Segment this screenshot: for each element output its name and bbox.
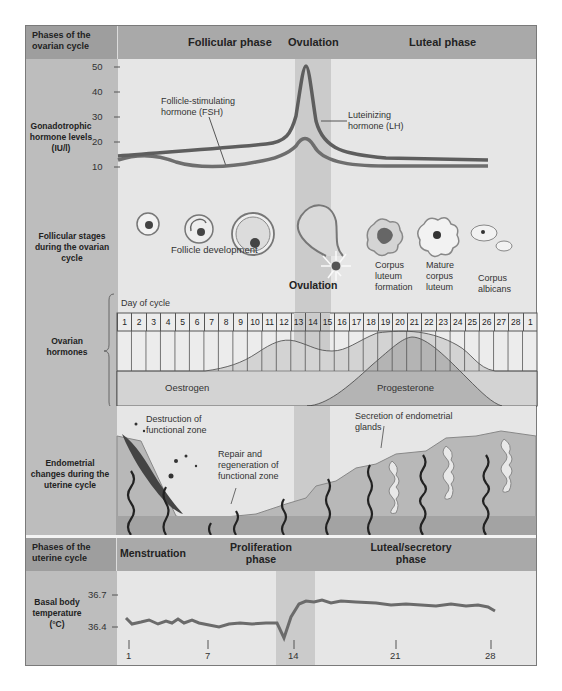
destruction-label: Destruction of functional zone xyxy=(146,414,212,436)
day-cell: 21 xyxy=(407,313,421,331)
endometrial-section: Endometrial changes during the uterine c… xyxy=(26,406,536,535)
day-cell: 13 xyxy=(291,313,305,331)
uterine-phase-header: Phases of the uterine cycle Menstruation… xyxy=(26,538,536,571)
progesterone-label: Progesterone xyxy=(377,382,434,393)
day-cell: 1 xyxy=(523,313,537,331)
menstruation-label: Menstruation xyxy=(120,547,186,559)
day-cell: 3 xyxy=(146,313,160,331)
oestrogen-label: Oestrogen xyxy=(165,382,209,393)
day-cell: 25 xyxy=(465,313,479,331)
secretion-label: Secretion of endometrial glands xyxy=(355,411,465,433)
bbt-x-tick-14: 14 xyxy=(288,650,299,661)
proliferation-label: Proliferation phase xyxy=(216,541,306,565)
day-cell: 15 xyxy=(320,313,334,331)
day-cell: 4 xyxy=(160,313,174,331)
day-cell: 24 xyxy=(450,313,464,331)
day-cell: 7 xyxy=(204,313,218,331)
day-cell: 12 xyxy=(276,313,290,331)
day-cell: 11 xyxy=(262,313,276,331)
day-cell: 28 xyxy=(508,313,522,331)
bbt-x-tick-7: 7 xyxy=(205,650,210,661)
uterine-header-label: Phases of the uterine cycle xyxy=(32,542,114,564)
repair-label: Repair and regeneration of functional zo… xyxy=(218,449,288,482)
luteal-secretory-label: Luteal/secretory phase xyxy=(356,541,466,565)
day-of-cycle-label: Day of cycle xyxy=(121,298,170,309)
day-cell: 19 xyxy=(378,313,392,331)
day-cell: 22 xyxy=(421,313,435,331)
day-cell: 23 xyxy=(436,313,450,331)
day-cell: 1 xyxy=(117,313,131,331)
day-cell: 6 xyxy=(189,313,203,331)
day-cell: 8 xyxy=(218,313,232,331)
day-cell: 10 xyxy=(247,313,261,331)
bbt-section: Basal body temperature (°C) 36.7 36.4 1 … xyxy=(26,571,536,665)
day-cell: 2 xyxy=(131,313,145,331)
day-cell: 9 xyxy=(233,313,247,331)
bbt-x-tick-1: 1 xyxy=(126,650,131,661)
day-cell: 26 xyxy=(479,313,493,331)
day-cell: 16 xyxy=(334,313,348,331)
day-cell: 20 xyxy=(392,313,406,331)
day-cell: 5 xyxy=(175,313,189,331)
bbt-chart xyxy=(26,571,536,665)
day-cell: 27 xyxy=(494,313,508,331)
bbt-x-tick-21: 21 xyxy=(390,650,401,661)
day-cell: 17 xyxy=(349,313,363,331)
bbt-x-tick-28: 28 xyxy=(485,650,496,661)
day-cell: 18 xyxy=(363,313,377,331)
day-cell: 14 xyxy=(305,313,319,331)
day-of-cycle-grid: 1234567891011121314151617181920212223242… xyxy=(117,313,537,406)
